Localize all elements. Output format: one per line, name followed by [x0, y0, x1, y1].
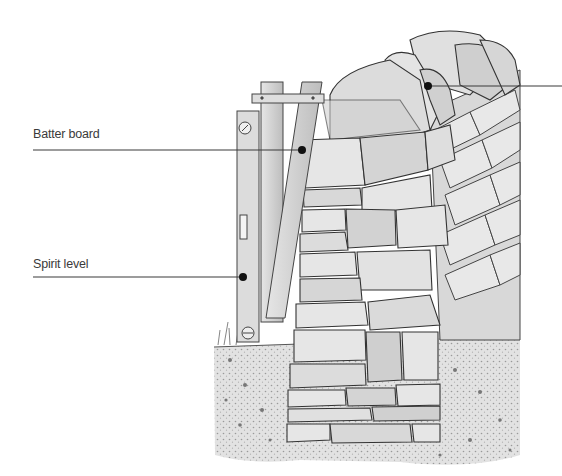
spirit-level-dot: [239, 273, 247, 281]
wall-drawing: [0, 0, 562, 476]
spirit-level-label: Spirit level: [33, 257, 88, 271]
wall-end-stones: [287, 125, 455, 443]
coping-stones-dot: [424, 82, 432, 90]
batter-board-label: Batter board: [33, 127, 99, 141]
dry-stone-wall-illustration: Batter board Spirit level: [0, 0, 562, 476]
batter-board-dot: [298, 146, 306, 154]
level-vial-middle: [240, 215, 247, 239]
spirit-level: [237, 111, 259, 342]
